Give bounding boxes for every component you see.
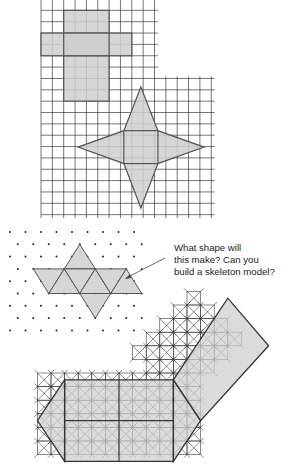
- cross-net-shape: [41, 10, 132, 101]
- star-net-shape: [78, 87, 204, 208]
- callout-text: What shape will this make? Can you build…: [174, 242, 296, 278]
- geometry-figure: [0, 0, 296, 475]
- callout-line-2: this make? Can you: [174, 254, 296, 266]
- callout-line-1: What shape will: [174, 242, 296, 254]
- callout-pointer-line: [126, 258, 165, 278]
- callout-line-3: build a skeleton model?: [174, 266, 296, 278]
- triangle-net-shape: [33, 244, 142, 318]
- diagonal-grid-net: [34, 288, 268, 461]
